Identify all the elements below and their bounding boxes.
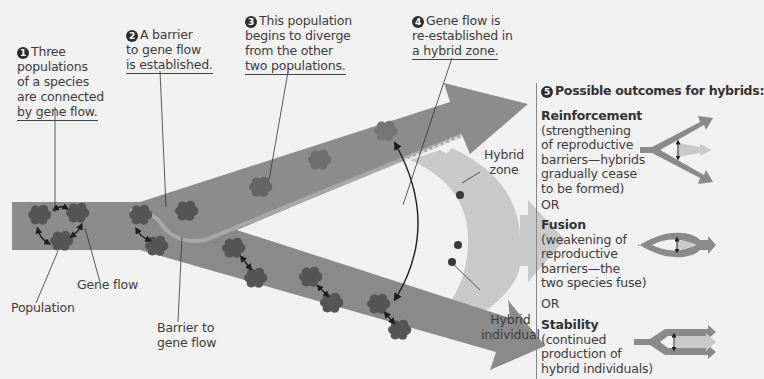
gene-flow-label: Gene flow xyxy=(77,277,138,292)
outcomes-title: 5Possible outcomes for hybrids: xyxy=(541,83,764,98)
step-2-number-badge: 2 xyxy=(126,30,138,42)
step-5-number-badge: 5 xyxy=(541,86,553,98)
or-separator-2: OR xyxy=(541,296,560,311)
barrier-label: Barrier to gene flow xyxy=(157,320,216,350)
step-4-caption: 4Gene flow is re-established in a hybrid… xyxy=(412,13,513,60)
step-1-caption: 1Three populations of a species are conn… xyxy=(17,44,104,121)
outcome-reinforcement: Reinforcement (strengthening of reproduc… xyxy=(541,109,645,196)
population-label: Population xyxy=(11,300,75,315)
step-4-number-badge: 4 xyxy=(412,16,424,28)
hybrid-zone-label: Hybrid zone xyxy=(484,147,524,177)
step-3-number-badge: 3 xyxy=(245,16,257,28)
step-1-number-badge: 1 xyxy=(17,47,29,59)
step-2-caption: 2A barrier to gene flow is established. xyxy=(126,27,213,74)
outcome-stability: Stability (continued production of hybri… xyxy=(541,318,653,376)
reestablished-gene-flow-arrow xyxy=(396,145,418,298)
step-3-caption: 3This population begins to diverge from … xyxy=(245,13,352,75)
or-separator-1: OR xyxy=(541,197,560,212)
outcomes-panel: 5Possible outcomes for hybrids: Reinforc… xyxy=(536,83,726,379)
hybrid-individual-label: Hybrid individual xyxy=(481,312,540,342)
outcome-fusion: Fusion (weakening of reproductive barrie… xyxy=(541,218,646,291)
